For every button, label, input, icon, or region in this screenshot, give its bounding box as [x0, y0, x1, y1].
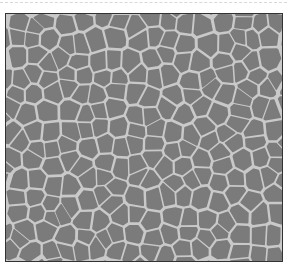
- texture-cell: [46, 142, 60, 157]
- texture-cell: [56, 15, 75, 33]
- texture-cell: [10, 48, 26, 67]
- texture-cell: [231, 246, 250, 258]
- texture-cell: [235, 14, 253, 15]
- texture-cell: [267, 248, 282, 261]
- texture-cell: [27, 86, 42, 103]
- voronoi-texture: [6, 14, 282, 261]
- texture-cell: [45, 178, 61, 196]
- texture-cell: [105, 29, 125, 48]
- texture-cell: [215, 15, 233, 32]
- texture-cell: [182, 208, 197, 224]
- texture-cell: [7, 190, 24, 203]
- texture-cell: [251, 247, 265, 261]
- texture-image-frame: [5, 13, 283, 262]
- texture-cell: [180, 73, 199, 88]
- texture-cell: [176, 258, 196, 261]
- texture-cell: [126, 226, 143, 243]
- texture-cell: [78, 68, 92, 83]
- texture-cell: [266, 121, 282, 140]
- texture-cell: [235, 18, 252, 29]
- caption-area: [0, 263, 287, 273]
- texture-cell: [253, 149, 268, 167]
- texture-cell: [26, 33, 38, 46]
- texture-cell: [108, 51, 120, 69]
- texture-cell: [69, 56, 87, 69]
- texture-cell: [126, 187, 143, 205]
- texture-cell: [110, 118, 126, 136]
- texture-cell: [91, 52, 105, 71]
- texture-cell: [253, 227, 266, 245]
- texture-cell: [165, 123, 181, 142]
- texture-cell: [144, 230, 162, 244]
- texture-cell: [30, 206, 44, 222]
- texture-cell: [210, 175, 227, 191]
- texture-cell: [270, 205, 282, 224]
- texture-cell: [11, 30, 25, 44]
- texture-cell: [146, 137, 164, 149]
- texture-cell: [106, 85, 125, 99]
- texture-cell: [30, 170, 46, 187]
- dashed-separator: [0, 2, 287, 3]
- texture-cell: [114, 159, 128, 179]
- texture-cell: [10, 14, 28, 30]
- texture-cell: [267, 225, 279, 245]
- texture-cell: [43, 123, 59, 140]
